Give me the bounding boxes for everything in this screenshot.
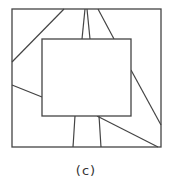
inner-rectangle (42, 39, 131, 116)
diagram-canvas (0, 0, 172, 188)
segment-line (82, 9, 85, 39)
segment-line (97, 116, 158, 147)
segment-line (98, 9, 114, 39)
segment-line (73, 116, 75, 147)
figure-caption: (c) (0, 163, 172, 178)
segment-line (12, 85, 42, 97)
segment-line (87, 9, 90, 39)
segment-line (99, 116, 101, 147)
segment-line (131, 70, 161, 125)
